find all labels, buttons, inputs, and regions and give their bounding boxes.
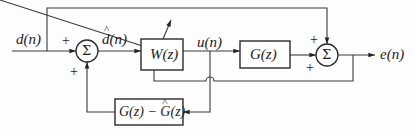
block-diagram: d(n) + + Σ d(n) W(z) u(n) G(z) + + Σ e(n…: [0, 0, 417, 135]
sum1-sigma: Σ: [82, 44, 91, 57]
model-error-suffix: (z): [170, 104, 185, 119]
adaptive-filter-label: W(z): [150, 47, 178, 62]
model-error-hat: G: [160, 105, 170, 119]
model-feedback-wire: [87, 62, 115, 112]
model-error-prefix: G(z) −: [119, 104, 160, 119]
diagram-wires: [0, 0, 417, 135]
plant-label: G(z): [250, 47, 277, 62]
control-label: u(n): [197, 35, 222, 50]
estimate-text: d(n): [102, 32, 127, 47]
adaptation-arrow: [163, 20, 171, 39]
sum1-plus-top: +: [62, 34, 70, 48]
sum2-sigma: Σ: [322, 48, 331, 61]
sum2-plus-top: +: [310, 33, 318, 47]
sum1-plus-bottom: +: [70, 65, 78, 79]
model-error-label: G(z) − G(z): [119, 105, 185, 119]
input-label: d(n): [16, 32, 41, 47]
output-label: e(n): [380, 47, 404, 62]
estimate-label: d(n): [102, 32, 127, 47]
sum2-plus-left: +: [306, 61, 314, 75]
